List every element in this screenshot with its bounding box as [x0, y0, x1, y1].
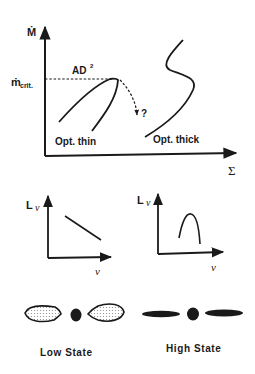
y-axis-label: L	[137, 194, 144, 206]
central-compact-object	[71, 309, 82, 322]
declining-spectrum-line	[65, 216, 101, 240]
accretion-disk-diagram: Ṁ ṁ crit. AD 2 ? Opt. thin Opt. thick Σ …	[0, 0, 255, 374]
opt-thick-label: Opt. thick	[153, 134, 200, 145]
left-thin-disk	[142, 311, 180, 317]
svg-text:crit.: crit.	[20, 82, 33, 89]
mdot-sigma-plot: Ṁ ṁ crit. AD 2 ? Opt. thin Opt. thick Σ	[11, 26, 236, 178]
opt-thin-label: Opt. thin	[55, 136, 96, 147]
x-axis-label-nu: ν	[211, 261, 216, 273]
x-axis	[45, 153, 236, 156]
low-state-diagram: Low State	[25, 304, 124, 358]
spectrum-plot-power-law: L ν ν	[26, 196, 111, 277]
high-state-diagram: High State	[142, 308, 243, 355]
right-thin-disk	[205, 310, 243, 317]
unknown-transition-dashed-arrow	[120, 80, 137, 115]
high-state-label: High State	[166, 343, 221, 354]
y-axis-subscript: ν	[146, 197, 151, 208]
central-compact-object	[187, 308, 199, 321]
spectrum-plot-thermal: L ν ν	[137, 194, 223, 273]
left-thick-disk-lens	[25, 306, 61, 322]
y-axis-label: L	[26, 199, 33, 211]
critical-rate-label: ṁ crit.	[11, 76, 33, 89]
y-axis-label: Ṁ	[27, 26, 36, 38]
ad2-label: AD 2	[72, 63, 94, 76]
optically-thick-s-curve	[145, 40, 194, 137]
x-axis	[48, 257, 111, 258]
question-mark: ?	[141, 108, 147, 119]
x-axis	[158, 252, 223, 254]
optically-thin-branch-curve	[59, 79, 118, 131]
low-state-label: Low State	[40, 347, 93, 358]
peaked-spectrum-curve	[179, 214, 200, 244]
y-axis-subscript: ν	[35, 202, 40, 213]
right-thick-disk-lens	[88, 304, 124, 321]
x-axis-label-nu: ν	[95, 265, 100, 277]
x-axis-label-sigma: Σ	[228, 163, 236, 178]
svg-text:2: 2	[90, 63, 94, 69]
svg-text:AD: AD	[72, 65, 86, 76]
